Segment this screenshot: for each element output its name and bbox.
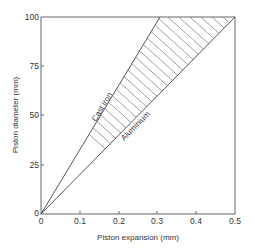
x-tick-0.4: 0.4 xyxy=(190,216,202,226)
x-axis-label: Piston expansion (mm) xyxy=(97,233,179,242)
cast-iron-label: Cast iron xyxy=(90,91,114,123)
aluminium-line xyxy=(41,17,235,214)
y-tick-75: 75 xyxy=(30,61,40,71)
x-tick-0.1: 0.1 xyxy=(74,216,86,226)
y-tick-100: 100 xyxy=(25,12,39,22)
chart: Cast iron Aluminium 100 75 50 25 0 Pisto… xyxy=(0,0,255,249)
x-axis: 0 0.1 0.2 0.3 0.4 0.5 Piston expansion (… xyxy=(39,211,242,242)
x-tick-0: 0 xyxy=(39,216,44,226)
y-axis: 100 75 50 25 0 Piston diameter (mm) xyxy=(11,12,44,218)
y-tick-25: 25 xyxy=(30,160,40,170)
y-axis-label: Piston diameter (mm) xyxy=(11,76,20,153)
y-tick-50: 50 xyxy=(30,110,40,120)
x-tick-0.5: 0.5 xyxy=(229,216,241,226)
x-tick-0.2: 0.2 xyxy=(113,216,125,226)
x-tick-0.3: 0.3 xyxy=(151,216,163,226)
